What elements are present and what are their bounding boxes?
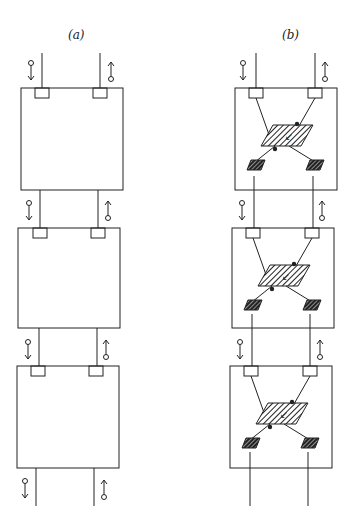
panel-a-signals	[22, 61, 114, 500]
block-a3	[17, 366, 119, 468]
panel-b-signals	[237, 61, 328, 360]
panel-b-internals	[242, 98, 324, 448]
panel-a	[17, 53, 123, 506]
block-a1	[21, 88, 123, 190]
block-a2	[18, 228, 120, 328]
cascade-diagram: ↙	[0, 0, 354, 532]
